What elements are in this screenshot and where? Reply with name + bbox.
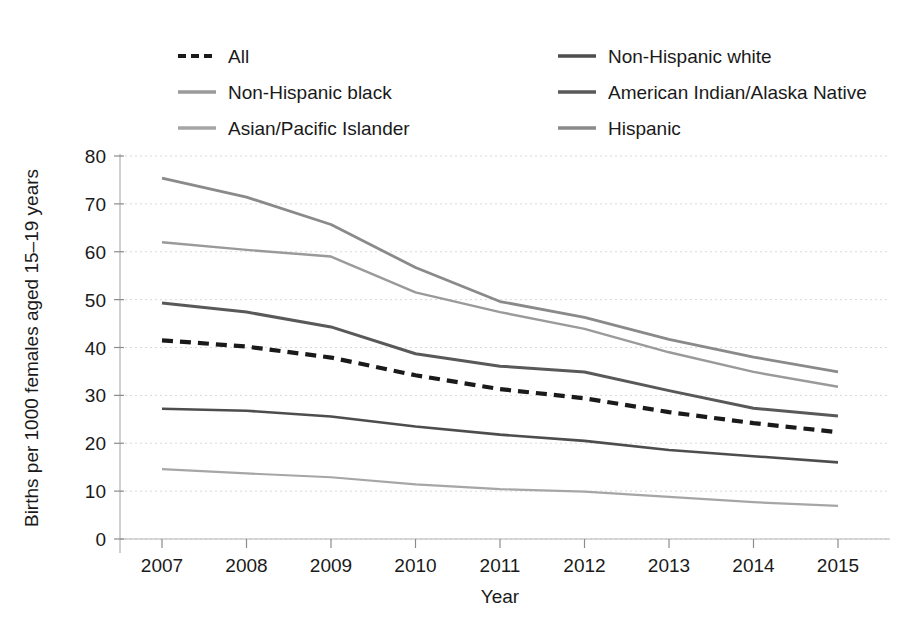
- line-chart: AllNon-Hispanic whiteNon-Hispanic blackA…: [0, 0, 921, 644]
- x-tick-label: 2013: [648, 555, 690, 576]
- legend-label: Hispanic: [608, 118, 681, 139]
- legend-label: All: [228, 46, 249, 67]
- y-tick-label: 0: [95, 529, 106, 550]
- x-tick-label: 2010: [394, 555, 436, 576]
- x-tick-label: 2012: [563, 555, 605, 576]
- legend-label: American Indian/Alaska Native: [608, 82, 867, 103]
- series-line-non-hispanic-white: [162, 409, 838, 463]
- y-axis-title: Births per 1000 females aged 15–19 years: [21, 169, 42, 527]
- legend-entry-hispanic[interactable]: Hispanic: [558, 118, 681, 139]
- legend-entry-non-hispanic-white[interactable]: Non-Hispanic white: [558, 46, 772, 67]
- chart-legend: AllNon-Hispanic whiteNon-Hispanic blackA…: [178, 46, 867, 139]
- legend-entry-american-indian-alaska-native[interactable]: American Indian/Alaska Native: [558, 82, 867, 103]
- x-tick-label: 2007: [141, 555, 183, 576]
- y-axis-tick-labels: 01020304050607080: [85, 146, 106, 550]
- y-tick-label: 40: [85, 338, 106, 359]
- chart-container: AllNon-Hispanic whiteNon-Hispanic blackA…: [0, 0, 921, 644]
- legend-label: Non-Hispanic white: [608, 46, 772, 67]
- x-tick-label: 2015: [817, 555, 859, 576]
- legend-entry-all[interactable]: All: [178, 46, 249, 67]
- y-tick-label: 70: [85, 194, 106, 215]
- x-axis-title: Year: [481, 586, 520, 607]
- axes: [114, 154, 890, 553]
- x-axis-tick-labels: 200720082009201020112012201320142015: [141, 555, 859, 576]
- legend-label: Non-Hispanic black: [228, 82, 392, 103]
- y-tick-label: 60: [85, 242, 106, 263]
- series-line-hispanic: [162, 178, 838, 372]
- x-tick-label: 2014: [732, 555, 775, 576]
- x-tick-label: 2009: [310, 555, 352, 576]
- legend-label: Asian/Pacific Islander: [228, 118, 410, 139]
- x-tick-label: 2008: [225, 555, 267, 576]
- data-series: [162, 178, 838, 506]
- y-tick-label: 30: [85, 385, 106, 406]
- y-tick-label: 80: [85, 146, 106, 167]
- legend-entry-non-hispanic-black[interactable]: Non-Hispanic black: [178, 82, 392, 103]
- y-tick-label: 20: [85, 433, 106, 454]
- x-tick-label: 2011: [480, 555, 521, 576]
- series-line-american-indian-alaska-native: [162, 303, 838, 416]
- series-line-asian-pacific-islander: [162, 469, 838, 506]
- y-tick-label: 10: [85, 481, 106, 502]
- y-tick-label: 50: [85, 290, 106, 311]
- legend-entry-asian-pacific-islander[interactable]: Asian/Pacific Islander: [178, 118, 410, 139]
